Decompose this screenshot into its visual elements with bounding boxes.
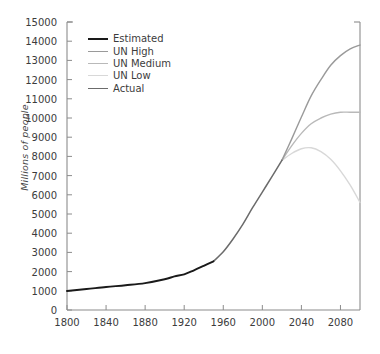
- series-line-actual: [214, 160, 282, 261]
- legend-swatch-icon: [88, 51, 108, 52]
- legend-item-label: UN High: [113, 46, 154, 57]
- legend-item-label: Estimated: [113, 33, 164, 44]
- legend-item-label: UN Medium: [113, 58, 171, 69]
- legend-swatch-icon: [88, 75, 108, 76]
- x-axis-tick-label: 1880: [123, 317, 167, 328]
- x-axis-tick-label: 2080: [318, 317, 362, 328]
- legend-swatch-icon: [88, 38, 108, 40]
- x-axis-tick-label: 1920: [162, 317, 206, 328]
- legend-item-un-high[interactable]: UN High: [88, 45, 171, 56]
- y-axis-ticks: [67, 22, 72, 310]
- legend-item-estimated[interactable]: Estimated: [88, 33, 171, 44]
- series-line-estimated: [67, 261, 214, 291]
- plot-area: [0, 0, 380, 354]
- legend-item-un-low[interactable]: UN Low: [88, 70, 171, 81]
- x-axis-tick-label: 1960: [201, 317, 245, 328]
- series-line-un-low: [282, 148, 360, 203]
- x-axis-tick-label: 2000: [240, 317, 284, 328]
- chart-svg: [0, 0, 380, 354]
- legend-swatch-icon: [88, 63, 108, 64]
- legend-item-un-medium[interactable]: UN Medium: [88, 58, 171, 69]
- legend-item-actual[interactable]: Actual: [88, 83, 171, 94]
- x-axis-ticks: [67, 305, 340, 310]
- x-axis-tick-label: 2040: [279, 317, 323, 328]
- legend-item-label: Actual: [113, 83, 144, 94]
- legend-item-label: UN Low: [113, 70, 151, 81]
- legend-swatch-icon: [88, 88, 108, 89]
- x-axis-tick-label: 1800: [45, 317, 89, 328]
- x-axis-tick-label: 1840: [84, 317, 128, 328]
- population-projection-chart: Millions of people 010002000300040005000…: [0, 0, 380, 354]
- chart-legend: EstimatedUN HighUN MediumUN LowActual: [88, 33, 171, 94]
